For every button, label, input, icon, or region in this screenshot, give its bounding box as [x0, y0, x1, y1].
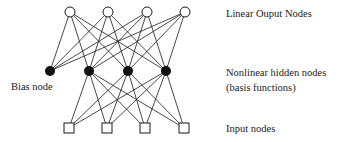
output-node-icon — [65, 7, 75, 17]
output-node-icon — [142, 7, 152, 17]
hidden-node-icon — [161, 66, 171, 76]
hidden-layer-sublabel: (basis functions) — [226, 81, 296, 95]
connection-line — [166, 71, 184, 128]
hidden-node-icon — [84, 66, 94, 76]
bias-node-icon — [45, 66, 55, 76]
input-node-icon — [140, 123, 150, 133]
connection-line — [89, 71, 107, 128]
hidden-layer-label: Nonlinear hidden nodes — [226, 66, 326, 80]
connection-line — [69, 71, 128, 128]
connection-line — [50, 12, 70, 71]
input-node-icon — [102, 123, 112, 133]
output-node-icon — [103, 7, 113, 17]
output-node-icon — [180, 7, 190, 17]
output-layer-label: Linear Ouput Nodes — [226, 7, 312, 21]
input-node-icon — [179, 123, 189, 133]
connection-line — [166, 12, 185, 71]
bias-node-label: Bias node — [11, 80, 53, 94]
connection-line — [69, 71, 89, 128]
connection-line — [70, 12, 89, 71]
nodes — [45, 7, 190, 133]
connection-line — [147, 12, 166, 71]
input-node-icon — [64, 123, 74, 133]
input-layer-label: Input nodes — [226, 122, 275, 136]
hidden-node-icon — [123, 66, 133, 76]
connection-line — [70, 12, 166, 71]
